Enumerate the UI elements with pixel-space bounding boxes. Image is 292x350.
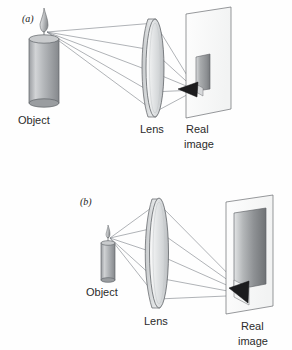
panel-a-lens [142,19,164,117]
panel-b: (b) Object [80,195,273,347]
panel-b-label: (b) [80,196,92,208]
lens-face-a [146,19,164,117]
panel-b-image-label-line1: Real [241,320,264,332]
panel-a-lens-label: Lens [140,123,164,135]
panel-b-object [101,225,115,282]
optics-figure: (a) Object [0,0,292,350]
panel-a-rays [47,23,196,112]
candle-body-b [101,243,115,280]
panel-b-lens [145,198,168,308]
lens-face-b [150,198,169,308]
image-candle-body-b [234,208,266,290]
panel-b-object-label: Object [86,286,118,298]
panel-a: (a) Object [18,7,231,150]
panel-a-image-label-line2: image [184,138,214,150]
panel-b-image-label-line2: image [238,335,268,347]
candle-flame-b [106,225,110,238]
candle-top-b [101,241,115,246]
candle-flame-a [40,8,48,32]
panel-b-lens-label: Lens [144,315,168,327]
candle-body-a [29,39,59,103]
figure-canvas: (a) Object [0,0,292,350]
panel-a-object-label: Object [18,114,50,126]
candle-top-a [29,35,59,43]
candle-bottom-b [101,278,115,283]
panel-a-image-label-line1: Real [186,123,209,135]
panel-a-label: (a) [22,13,34,25]
candle-bottom-a [29,99,59,107]
